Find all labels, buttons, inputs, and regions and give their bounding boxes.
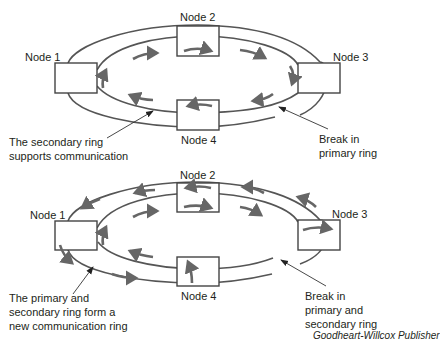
callout-line: Break in: [305, 289, 345, 303]
flow-arrow-icon: [103, 227, 106, 245]
flow-arrow-icon: [82, 199, 100, 208]
flow-arrow-icon: [130, 95, 153, 100]
callout-pointer: [73, 267, 93, 294]
flow-arrow-icon: [240, 207, 261, 215]
callout-pointer: [281, 260, 326, 286]
callout-line: Break in: [319, 132, 359, 146]
flow-arrow-icon: [130, 251, 153, 257]
top-node-3-box: [298, 63, 340, 93]
callout-line: The secondary ring: [9, 135, 103, 149]
flow-arrow-icon: [135, 190, 155, 193]
top-node-3-label: Node 3: [333, 50, 368, 64]
flow-arrow-icon: [188, 105, 212, 107]
flow-arrow-icon: [133, 53, 157, 59]
flow-arrow-icon: [112, 274, 136, 278]
callout-line: new communication ring: [9, 319, 128, 333]
flow-arrow-icon: [186, 187, 211, 189]
top-diagram: [55, 25, 340, 138]
top-node-2-box: [177, 26, 219, 56]
bottom-node-2-label: Node 2: [180, 168, 215, 182]
callout-line: primary ring: [319, 146, 377, 160]
flow-arrow-icon: [103, 70, 106, 88]
bottom-node-1-label: Node 1: [30, 208, 65, 222]
flow-arrow-icon: [290, 66, 293, 84]
publisher-credit: Goodheart-Willcox Publisher: [313, 330, 440, 341]
flow-arrow-icon: [133, 211, 157, 217]
top-node-1-box: [55, 63, 97, 93]
top-node-4-label: Node 4: [181, 133, 216, 147]
callout-line: supports communication: [9, 149, 128, 163]
callout-pointer: [279, 107, 328, 129]
flow-arrow-icon: [240, 50, 265, 58]
callout-line: secondary ring form a: [9, 305, 115, 319]
flow-arrow-icon: [243, 187, 264, 193]
bottom-node-3-box: [298, 220, 340, 250]
callout-line: secondary ring: [305, 317, 377, 331]
top-node-1-label: Node 1: [25, 50, 60, 64]
flow-arrow-icon: [253, 94, 273, 101]
callout-line: The primary and: [9, 291, 89, 305]
top-node-2-label: Node 2: [180, 10, 215, 24]
callout-line: primary and: [305, 303, 363, 317]
bottom-node-4-label: Node 4: [181, 289, 216, 303]
bottom-node-4-box: [177, 257, 219, 286]
bottom-diagram: [55, 182, 340, 294]
bottom-node-3-label: Node 3: [332, 207, 367, 221]
